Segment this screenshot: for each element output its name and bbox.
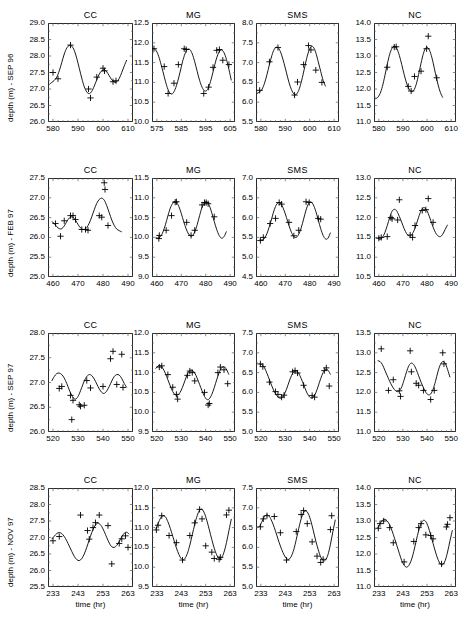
x-tick-label: 540: [199, 435, 212, 443]
x-axis-label: time (hr): [374, 600, 456, 609]
y-tick-label: 27.0: [29, 85, 45, 93]
observation-markers: [56, 348, 126, 423]
x-tick-label: 470: [175, 280, 188, 288]
x-tick-label: 243: [71, 590, 84, 598]
plot-area: [48, 23, 133, 122]
x-tick-label: 610: [444, 125, 457, 133]
y-tick-label: 28.0: [29, 329, 45, 337]
observation-markers: [156, 363, 231, 408]
y-tick-label: 11.5: [356, 408, 371, 416]
model-curve: [378, 519, 453, 567]
x-tick-label: 520: [46, 435, 59, 443]
x-tick-label: 233: [150, 590, 163, 598]
plot-area: [374, 488, 456, 587]
y-tick-label: 5.5: [242, 118, 253, 126]
y-tick-label: 12.0: [133, 39, 149, 47]
y-tick-label: 12.5: [355, 194, 371, 202]
panel-title: CC: [48, 10, 133, 20]
x-tick-label: 530: [279, 435, 292, 443]
y-tick-label: 10.0: [133, 408, 149, 416]
panel-title: CC: [48, 320, 133, 330]
panel-sms-r4: SMS5.05.56.06.57.07.5233243253263time (h…: [256, 488, 339, 587]
y-tick-label: 6.0: [242, 214, 253, 222]
x-tick-label: 490: [223, 280, 236, 288]
y-tick-label: 11.0: [134, 369, 149, 377]
x-tick-label: 460: [254, 280, 267, 288]
panel-title: NC: [374, 475, 456, 485]
y-tick-label: 11.0: [134, 194, 149, 202]
x-tick-label: 540: [303, 435, 316, 443]
x-tick-label: 243: [279, 590, 292, 598]
y-tick-label: 27.5: [29, 174, 45, 182]
x-tick-label: 490: [327, 280, 340, 288]
y-tick-label: 11.0: [356, 428, 371, 436]
y-tick-label: 29.0: [29, 19, 45, 27]
y-tick-label: 25.0: [29, 273, 45, 281]
x-tick-label: 590: [396, 125, 409, 133]
x-tick-label: 480: [303, 280, 316, 288]
y-tick-label: 26.5: [29, 550, 45, 558]
y-tick-label: 11.5: [356, 102, 371, 110]
observation-markers: [378, 346, 447, 403]
x-tick-label: 530: [396, 435, 409, 443]
panel-nc-r1: NC11.011.512.012.513.013.514.05805906006…: [374, 23, 456, 122]
x-tick-label: 520: [150, 435, 163, 443]
x-tick-label: 263: [327, 590, 340, 598]
x-tick-label: 480: [199, 280, 212, 288]
y-tick-label: 5.0: [242, 253, 253, 261]
y-tick-label: 26.0: [29, 233, 45, 241]
tick-marks: [256, 23, 339, 122]
panel-nc-r3: NC11.011.512.012.513.013.5520530540550: [374, 333, 456, 432]
y-tick-label: 12.5: [355, 69, 371, 77]
panel-cc-r4: CC25.526.026.527.027.528.028.52332432532…: [48, 488, 133, 587]
plot-area: [48, 333, 133, 432]
y-tick-label: 6.0: [242, 543, 253, 551]
y-tick-label: 28.5: [29, 484, 45, 492]
observation-markers: [50, 512, 131, 567]
tick-marks: [152, 333, 235, 432]
panel-title: MG: [152, 320, 235, 330]
y-tick-label: 27.5: [29, 69, 45, 77]
x-tick-label: 575: [150, 125, 163, 133]
x-tick-label: 243: [396, 590, 409, 598]
y-tick-label: 6.5: [242, 524, 253, 532]
tick-marks: [48, 488, 133, 587]
plot-area: [152, 178, 235, 277]
y-tick-label: 12.0: [133, 329, 149, 337]
plot-area: [152, 333, 235, 432]
x-tick-label: 600: [303, 125, 316, 133]
x-tick-label: 233: [46, 590, 59, 598]
y-tick-label: 5.0: [242, 428, 253, 436]
y-axis-label: depth (m) - SEP 96: [7, 54, 15, 122]
x-tick-label: 530: [71, 435, 84, 443]
x-tick-label: 243: [175, 590, 188, 598]
y-tick-label: 9.0: [138, 273, 149, 281]
panel-sms-r2: SMS4.55.05.56.06.57.0460470480490: [256, 178, 339, 277]
y-tick-label: 13.0: [355, 52, 371, 60]
y-tick-label: 6.0: [242, 388, 253, 396]
y-tick-label: 12.0: [355, 550, 371, 558]
x-tick-label: 253: [420, 590, 433, 598]
x-tick-label: 580: [46, 125, 59, 133]
y-tick-label: 13.5: [355, 329, 371, 337]
y-tick-label: 5.5: [242, 563, 253, 571]
y-tick-label: 27.0: [29, 194, 45, 202]
y-tick-label: 13.5: [355, 501, 371, 509]
x-tick-label: 520: [372, 435, 385, 443]
x-tick-label: 590: [71, 125, 84, 133]
x-tick-label: 600: [420, 125, 433, 133]
observation-markers: [384, 33, 440, 94]
model-curve: [49, 45, 127, 93]
y-tick-label: 14.0: [355, 484, 371, 492]
y-tick-label: 7.0: [242, 504, 253, 512]
panel-title: SMS: [256, 10, 339, 20]
plot-area: [256, 488, 339, 587]
y-tick-label: 12.5: [355, 534, 371, 542]
y-tick-label: 9.5: [138, 583, 149, 591]
panel-cc-r1: CC26.026.527.027.528.028.529.05805906006…: [48, 23, 133, 122]
x-tick-label: 460: [372, 280, 385, 288]
x-tick-label: 550: [327, 435, 340, 443]
tick-marks: [48, 178, 133, 277]
y-tick-label: 8.0: [242, 19, 253, 27]
y-tick-label: 10.0: [133, 233, 149, 241]
